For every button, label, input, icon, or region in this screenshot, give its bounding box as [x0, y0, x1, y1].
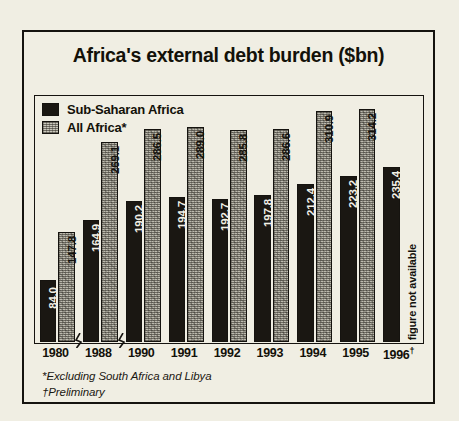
missing-figure-note: figure not available	[406, 244, 418, 340]
x-tick-1996: 1996†	[377, 346, 420, 362]
bar-value-label: 147.8	[67, 236, 79, 264]
dark-swatch-icon	[42, 103, 59, 116]
footnote-preliminary: †Preliminary	[42, 385, 212, 401]
bar-ssa-1988: 164.9	[83, 220, 100, 342]
x-tick-1988: 1988	[77, 346, 120, 360]
x-tick-1991: 1991	[163, 346, 206, 360]
bar-group: 212.4310.9	[297, 97, 332, 342]
axis-break-mark	[116, 333, 127, 348]
bar-value-label: 289.0	[195, 131, 207, 159]
bar-value-label: 235.4	[391, 171, 403, 199]
chart-title: Africa's external debt burden ($bn)	[22, 44, 435, 67]
bar-all-1988: 269.1	[101, 142, 118, 342]
chart-figure: Africa's external debt burden ($bn) Sub-…	[0, 0, 459, 421]
bar-value-label: 285.8	[238, 134, 250, 162]
legend-label: Sub-Saharan Africa	[67, 102, 184, 117]
bar-ssa-1991: 194.7	[169, 197, 186, 342]
bar-ssa-1980: 84.0	[40, 280, 57, 342]
x-tick-1994: 1994	[291, 346, 334, 360]
chart-legend: Sub-Saharan Africa All Africa*	[42, 101, 184, 137]
bar-all-1991: 289.0	[187, 127, 204, 342]
legend-item-all-africa: All Africa*	[42, 119, 184, 136]
light-swatch-icon	[42, 121, 59, 134]
bar-ssa-1994: 212.4	[297, 184, 314, 342]
bar-group: 192.7285.8	[212, 97, 247, 342]
axis-break-mark	[73, 333, 84, 348]
x-axis-labels: 198019881990199119921993199419951996†	[34, 346, 424, 364]
x-tick-1995: 1995	[334, 346, 377, 360]
x-tick-1993: 1993	[248, 346, 291, 360]
bar-value-label: 314.2	[367, 113, 379, 141]
bar-all-1993: 286.6	[273, 129, 290, 342]
bar-ssa-1990: 190.2	[126, 201, 143, 342]
x-tick-1990: 1990	[120, 346, 163, 360]
bar-all-1980: 147.8	[58, 232, 75, 342]
bar-all-1995: 314.2	[359, 109, 376, 342]
bar-value-label: 269.1	[110, 146, 122, 174]
x-tick-1980: 1980	[34, 346, 77, 360]
bar-ssa-1995: 223.2	[340, 176, 357, 342]
bar-group: 197.8286.6	[254, 97, 289, 342]
chart-footnotes: *Excluding South Africa and Libya †Preli…	[42, 369, 212, 400]
bar-value-label: 286.5	[152, 133, 164, 161]
legend-item-sub-saharan-africa: Sub-Saharan Africa	[42, 101, 184, 118]
bar-group: 223.2314.2	[340, 97, 375, 342]
bar-ssa-1992: 192.7	[212, 199, 229, 342]
bar-ssa-1993: 197.8	[254, 195, 271, 342]
x-tick-1992: 1992	[206, 346, 249, 360]
bar-value-label: 310.9	[324, 115, 336, 143]
bar-ssa-1996: 235.4	[383, 167, 400, 342]
bar-all-1994: 310.9	[316, 111, 333, 342]
legend-label: All Africa*	[67, 120, 126, 135]
bar-value-label: 286.6	[281, 133, 293, 161]
bar-all-1990: 286.5	[144, 129, 161, 342]
footnote-excluding: *Excluding South Africa and Libya	[42, 369, 212, 385]
bar-all-1992: 285.8	[230, 130, 247, 342]
